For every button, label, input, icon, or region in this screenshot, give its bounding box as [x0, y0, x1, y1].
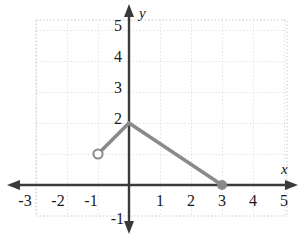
y-tick-label-5: 5: [114, 17, 122, 34]
coordinate-plane-svg: x y -3 -2 -1 1 2 3 4 5 5 4 3 2 -1: [0, 0, 302, 239]
x-tick-label-neg2: -2: [51, 192, 64, 209]
x-tick-label-neg1: -1: [84, 192, 97, 209]
y-tick-label-4: 4: [114, 48, 122, 65]
x-tick-label-neg3: -3: [18, 192, 31, 209]
graph-figure: x y -3 -2 -1 1 2 3 4 5 5 4 3 2 -1: [0, 0, 302, 239]
y-axis-label: y: [137, 5, 146, 21]
x-tick-label-1: 1: [156, 192, 164, 209]
open-endpoint-marker: [93, 149, 102, 158]
x-tick-label-3: 3: [218, 192, 226, 209]
x-tick-label-2: 2: [187, 192, 195, 209]
x-axis-label: x: [280, 161, 288, 177]
y-tick-label-3: 3: [114, 79, 122, 96]
grid: [36, 20, 287, 216]
x-tick-label-5: 5: [280, 192, 288, 209]
y-tick-label-neg1: -1: [111, 210, 124, 227]
x-tick-label-4: 4: [249, 192, 257, 209]
closed-endpoint-marker: [217, 180, 227, 190]
y-tick-label-2: 2: [114, 110, 122, 127]
